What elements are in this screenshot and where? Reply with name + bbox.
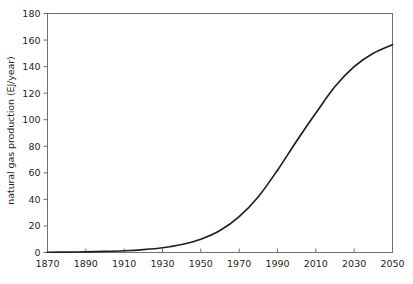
x-tick-label: 1890 [74,258,98,269]
axis-frame [48,14,393,253]
plot-area: 020406080100120140160180 187018901910193… [0,0,413,284]
x-tick-label: 1950 [189,258,213,269]
x-tick-label: 2010 [304,258,328,269]
x-tick-label: 1990 [265,258,289,269]
x-tick-label: 1870 [35,258,59,269]
x-tick-label: 2030 [342,258,366,269]
y-tick-label: 80 [28,141,40,152]
y-tick-label: 100 [22,114,40,125]
y-tick-label: 180 [22,8,40,19]
axis-box [48,14,393,253]
data-line-natural-gas-production [48,45,393,253]
x-tick-label: 1910 [112,258,136,269]
x-tick-label: 1930 [150,258,174,269]
y-tick-label: 140 [22,61,40,72]
y-tick-label: 20 [28,220,40,231]
y-tick-group: 020406080100120140160180 [22,8,47,258]
y-tick-label: 0 [34,247,40,258]
chart-figure: natural gas production (EJ/year) 0204060… [0,0,413,284]
x-tick-label: 2050 [380,258,404,269]
x-tick-label: 1970 [227,258,251,269]
y-tick-label: 60 [28,167,40,178]
y-tick-label: 160 [22,35,40,46]
y-tick-label: 40 [28,194,40,205]
y-tick-label: 120 [22,88,40,99]
